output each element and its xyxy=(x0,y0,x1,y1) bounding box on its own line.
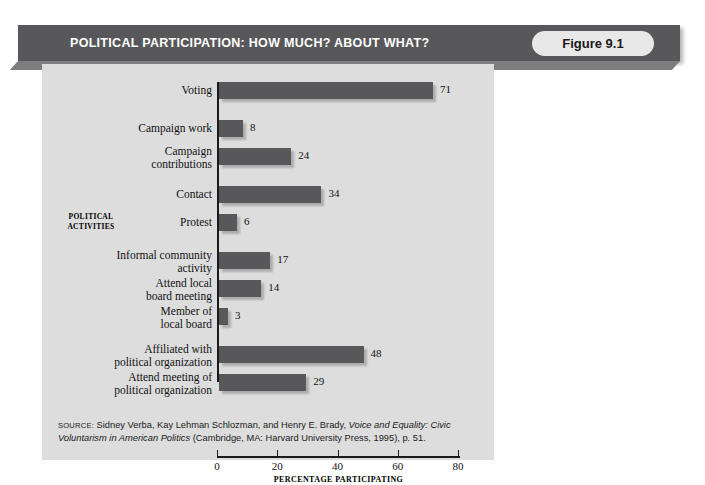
bar-label-line: Affiliated with xyxy=(42,343,212,356)
bar-label-line: activity xyxy=(42,262,212,275)
x-axis-tick-label: 60 xyxy=(383,460,413,472)
bar-label: Informal communityactivity xyxy=(42,249,212,274)
bar-label-line: Voting xyxy=(42,84,212,97)
figure-number-badge: Figure 9.1 xyxy=(532,31,654,56)
bar-value-label: 17 xyxy=(277,253,288,265)
source-note: SOURCE: Sidney Verba, Kay Lehman Schlozm… xyxy=(58,419,478,445)
bar[interactable] xyxy=(219,346,364,363)
bar-label: Campaigncontributions xyxy=(42,145,212,170)
bar-label: Member oflocal board xyxy=(42,305,212,330)
bar-value-label: 34 xyxy=(328,187,339,199)
bar-label-line: political organization xyxy=(42,356,212,369)
bar[interactable] xyxy=(219,374,306,391)
bar-label-line: Campaign work xyxy=(42,122,212,135)
bar-value-label: 48 xyxy=(371,347,382,359)
bar-label-line: Member of xyxy=(42,305,212,318)
bar-label-line: local board xyxy=(42,318,212,331)
bar[interactable] xyxy=(219,186,321,203)
bar-label-line: Protest xyxy=(42,216,212,229)
bar-value-label: 14 xyxy=(268,281,279,293)
bar-label-line: political organization xyxy=(42,384,212,397)
x-axis-tick-label: 0 xyxy=(202,460,232,472)
bar-label-line: Attend meeting of xyxy=(42,371,212,384)
bar[interactable] xyxy=(219,252,270,269)
bar[interactable] xyxy=(219,148,291,165)
bar-label-line: Attend local xyxy=(42,277,212,290)
bar-label: Attend meeting ofpolitical organization xyxy=(42,371,212,396)
bar-label: Affiliated withpolitical organization xyxy=(42,343,212,368)
bar-label: Contact xyxy=(42,188,212,201)
x-axis-tick xyxy=(277,450,278,457)
x-axis-tick xyxy=(458,450,459,457)
bar-value-label: 24 xyxy=(298,149,309,161)
x-axis-line xyxy=(217,456,460,458)
bar-label-line: Campaign xyxy=(42,145,212,158)
figure-header-bar: POLITICAL PARTICIPATION: HOW MUCH? ABOUT… xyxy=(18,25,680,61)
figure-plate: POLITICALACTIVITIES Voting71Campaign wor… xyxy=(42,64,494,460)
bar-label-line: Informal community xyxy=(42,249,212,262)
source-text-after: (Cambridge, MA: Harvard University Press… xyxy=(190,433,426,443)
bar-label: Attend localboard meeting xyxy=(42,277,212,302)
bar-label-line: contributions xyxy=(42,158,212,171)
x-axis-tick-label: 20 xyxy=(262,460,292,472)
bar[interactable] xyxy=(219,214,237,231)
bar-chart: POLITICALACTIVITIES Voting71Campaign wor… xyxy=(42,72,494,382)
bar-label: Protest xyxy=(42,216,212,229)
x-axis-tick-label: 40 xyxy=(323,460,353,472)
bar-value-label: 71 xyxy=(440,83,451,95)
x-axis-tick xyxy=(217,450,218,457)
bar[interactable] xyxy=(219,82,433,99)
bar-label: Campaign work xyxy=(42,122,212,135)
x-axis-tick-label: 80 xyxy=(443,460,473,472)
bar[interactable] xyxy=(219,280,261,297)
x-axis-title: PERCENTAGE PARTICIPATING xyxy=(217,475,460,484)
bar-label: Voting xyxy=(42,84,212,97)
bar[interactable] xyxy=(219,120,243,137)
bar-value-label: 29 xyxy=(313,375,324,387)
page-title: POLITICAL PARTICIPATION: HOW MUCH? ABOUT… xyxy=(70,25,429,61)
bar-value-label: 6 xyxy=(244,215,250,227)
bar[interactable] xyxy=(219,308,228,325)
bar-label-line: Contact xyxy=(42,188,212,201)
x-axis-tick xyxy=(338,450,339,457)
bar-value-label: 3 xyxy=(235,309,241,321)
bar-label-line: board meeting xyxy=(42,290,212,303)
bar-value-label: 8 xyxy=(250,121,256,133)
x-axis-tick xyxy=(398,450,399,457)
source-text-before: Sidney Verba, Kay Lehman Schlozman, and … xyxy=(94,420,349,430)
source-label: SOURCE: xyxy=(58,421,94,430)
